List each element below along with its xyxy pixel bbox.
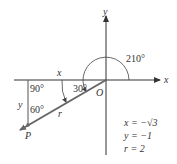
value-r: r = 2 [124,143,145,154]
value-y: y = −1 [123,130,152,141]
x-axis-label: x [163,74,169,85]
right-angle-label: 90° [30,83,44,94]
origin-label: O [96,87,103,98]
point-p-label: P [24,130,31,141]
triangle-side-y-label: y [17,99,23,110]
reference-triangle-diagram: x y r 90° 60° 30° 210° O P y x x = −√3 y… [0,0,177,164]
standard-angle-label: 210° [126,53,145,64]
triangle-side-r-label: r [58,108,62,119]
angle-arc-30 [62,80,66,102]
angle-60-label: 60° [30,104,44,115]
triangle-side-x-label: x [56,67,62,78]
value-x: x = −√3 [123,117,157,128]
y-axis-label: y [102,6,108,17]
reference-angle-label: 30° [73,83,87,94]
point-p-dot [26,123,30,127]
